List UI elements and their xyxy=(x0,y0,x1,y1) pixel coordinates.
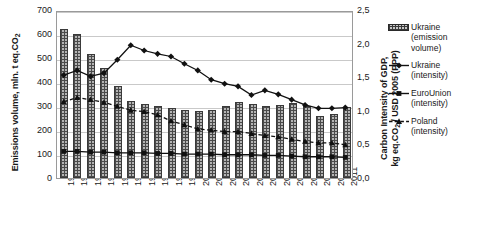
data-point-marker xyxy=(276,153,281,158)
data-point-marker xyxy=(61,72,67,78)
data-point-marker xyxy=(342,105,348,111)
data-point-marker xyxy=(61,149,66,154)
right-axis-tick-label: 2,0 xyxy=(357,40,387,49)
data-point-marker xyxy=(262,87,268,93)
data-point-marker xyxy=(316,154,321,159)
data-point-marker xyxy=(88,150,93,155)
data-point-marker xyxy=(88,96,94,102)
legend-entry[interactable]: Poland(intensity) xyxy=(388,116,490,137)
legend-label: Ukraine(intensity) xyxy=(411,60,490,81)
data-point-marker xyxy=(275,134,281,140)
legend-entry[interactable]: Ukraine(emissionvolume) xyxy=(388,22,490,53)
data-point-marker xyxy=(315,105,321,111)
data-point-marker xyxy=(289,154,294,159)
left-axis-tick-label: 600 xyxy=(12,30,52,39)
carbon-intensity-chart: Emissions volume, mln. t eq.CO2 Carbon I… xyxy=(0,0,492,237)
left-axis-tick-label: 400 xyxy=(12,78,52,87)
data-point-marker xyxy=(209,152,214,157)
data-point-marker xyxy=(142,150,147,155)
data-point-marker xyxy=(275,91,281,97)
left-axis-tick-label: 300 xyxy=(12,102,52,111)
data-point-marker xyxy=(115,150,120,155)
data-point-marker xyxy=(330,154,335,159)
legend-pattern-swatch-icon xyxy=(388,24,409,31)
left-axis-tick-label: 200 xyxy=(12,126,52,135)
data-point-marker xyxy=(168,118,174,124)
data-point-marker xyxy=(222,152,227,157)
data-point-marker xyxy=(74,94,80,100)
right-axis-tick-label: 1,5 xyxy=(357,73,387,82)
data-point-marker xyxy=(169,151,174,156)
right-axis-tick-label: 0,5 xyxy=(357,140,387,149)
legend-line-icon xyxy=(388,88,410,99)
data-point-marker xyxy=(236,152,241,157)
data-point-marker xyxy=(302,102,308,108)
data-point-marker xyxy=(302,138,308,144)
data-point-marker xyxy=(128,150,133,155)
legend-label: Ukraine(emissionvolume) xyxy=(411,22,490,53)
left-axis-tick-label: 0 xyxy=(12,174,52,183)
data-point-marker xyxy=(329,105,335,111)
legend-entry[interactable]: Ukraine(intensity) xyxy=(388,60,490,81)
data-point-marker xyxy=(102,150,107,155)
line-series-group xyxy=(57,12,352,178)
data-point-marker xyxy=(154,51,160,57)
data-point-marker xyxy=(181,61,187,67)
data-point-marker xyxy=(249,152,254,157)
chart-legend: Ukraine(emissionvolume)Ukraine(intensity… xyxy=(388,22,490,143)
data-point-marker xyxy=(289,136,295,142)
data-point-marker xyxy=(155,112,161,118)
data-point-marker xyxy=(289,97,295,103)
legend-label: EuroUnion(intensity) xyxy=(411,88,490,109)
data-point-marker xyxy=(182,152,187,157)
data-point-marker xyxy=(141,47,147,53)
plot-area xyxy=(56,11,353,179)
data-point-marker xyxy=(303,154,308,159)
left-axis-tick-label: 500 xyxy=(12,54,52,63)
right-axis-tick-label: 2,5 xyxy=(357,6,387,15)
right-axis-tick-label: 0,0 xyxy=(357,174,387,183)
legend-line-icon xyxy=(388,60,410,71)
data-point-marker xyxy=(87,73,93,79)
legend-key-icon xyxy=(388,88,410,99)
left-axis-tick-label: 700 xyxy=(12,6,52,15)
legend-key-icon xyxy=(388,116,410,127)
legend-line-icon xyxy=(388,116,410,127)
data-point-marker xyxy=(343,155,348,160)
data-point-marker xyxy=(168,53,174,59)
data-point-marker xyxy=(155,151,160,156)
data-point-marker xyxy=(74,67,80,73)
legend-label: Poland(intensity) xyxy=(411,116,490,137)
data-point-marker xyxy=(222,81,228,87)
legend-key-icon xyxy=(388,60,410,71)
data-point-marker xyxy=(195,152,200,157)
legend-entry[interactable]: EuroUnion(intensity) xyxy=(388,88,490,109)
data-point-marker xyxy=(75,149,80,154)
line-series xyxy=(61,149,347,160)
data-point-marker xyxy=(262,153,267,158)
legend-key-icon xyxy=(388,22,410,33)
left-axis-tick-label: 100 xyxy=(12,150,52,159)
right-axis-tick-label: 1,0 xyxy=(357,107,387,116)
series-line xyxy=(64,45,346,108)
